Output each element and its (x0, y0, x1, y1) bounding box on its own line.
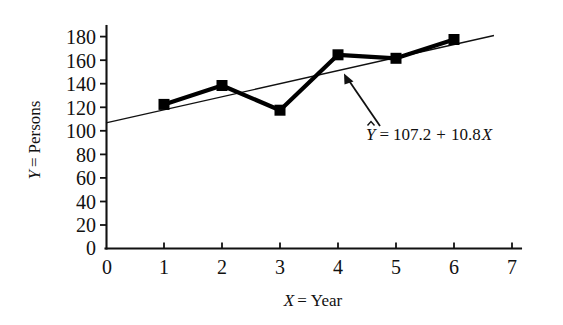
y-tick-label-60: 60 (76, 167, 96, 189)
y-axis-title-equals: = (25, 157, 44, 167)
regression-scatter-chart: 180 160 140 120 100 80 60 40 20 0 0 1 2 … (0, 0, 563, 325)
y-tick-label-40: 40 (76, 191, 96, 213)
x-axis-title-equals: = (297, 291, 307, 310)
y-tick-label-120: 120 (66, 97, 96, 119)
x-axis-title: X=Year (283, 291, 343, 310)
y-axis-tick-labels: 180 160 140 120 100 80 60 40 20 0 (66, 26, 96, 259)
data-point-marker (275, 105, 286, 116)
equation-plus: + (436, 125, 446, 144)
x-tick-label-3: 3 (275, 256, 285, 278)
data-point-marker (391, 53, 402, 64)
data-point-marker (159, 99, 170, 110)
y-axis-title: Y=Persons (25, 101, 44, 180)
equation-intercept: 107.2 (393, 125, 431, 144)
y-tick-label-80: 80 (76, 144, 96, 166)
y-tick-label-20: 20 (76, 214, 96, 236)
equation-equals: = (379, 125, 389, 144)
x-axis-title-symbol: X (283, 291, 295, 310)
y-tick-label-100: 100 (66, 120, 96, 142)
equation-x-symbol: X (481, 125, 493, 144)
equation-y-symbol: Y (366, 125, 377, 144)
x-tick-label-7: 7 (507, 256, 517, 278)
x-tick-label-2: 2 (217, 256, 227, 278)
data-point-marker (217, 80, 228, 91)
svg-text:Y=107.2+10.8X: Y=107.2+10.8X (366, 125, 493, 144)
x-axis-tick-labels: 0 1 2 3 4 5 6 7 (102, 256, 517, 278)
equation-slope: 10.8 (451, 125, 481, 144)
data-markers (159, 34, 460, 116)
x-tick-label-0: 0 (102, 256, 112, 278)
chart-canvas: 180 160 140 120 100 80 60 40 20 0 0 1 2 … (0, 0, 563, 325)
data-point-marker (449, 34, 460, 45)
y-axis-title-name: Persons (25, 101, 44, 154)
y-tick-label-0: 0 (86, 237, 96, 259)
y-tick-label-160: 160 (66, 50, 96, 72)
y-tick-label-180: 180 (66, 26, 96, 48)
y-axis-title-symbol: Y (25, 168, 44, 179)
x-tick-label-4: 4 (333, 256, 343, 278)
regression-equation-annotation: Y=107.2+10.8X (366, 122, 493, 145)
x-tick-label-6: 6 (449, 256, 459, 278)
x-tick-label-1: 1 (159, 256, 169, 278)
x-axis-title-name: Year (311, 291, 343, 310)
equation-callout-arrow (344, 74, 380, 127)
y-tick-label-140: 140 (66, 73, 96, 95)
x-tick-label-5: 5 (391, 256, 401, 278)
data-point-marker (333, 49, 344, 60)
